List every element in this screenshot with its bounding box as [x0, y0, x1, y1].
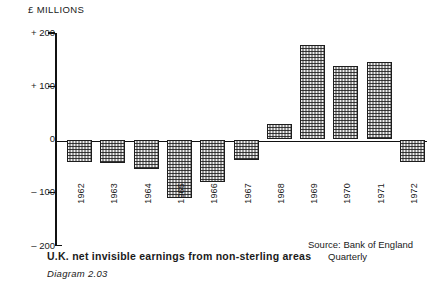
bar-1966 — [200, 140, 225, 183]
x-axis-label-1966: 1966 — [209, 183, 219, 204]
y-tick-label: – 100 — [9, 186, 55, 197]
x-axis-label-1969: 1969 — [309, 183, 319, 204]
chart-caption: U.K. net invisible earnings from non-ste… — [47, 250, 311, 262]
bar-1967 — [234, 140, 259, 160]
x-axis-label-1962: 1962 — [76, 183, 86, 204]
bar-1964 — [134, 140, 159, 170]
plot-area: 1962196319641965196619671968196919701971… — [55, 33, 427, 246]
diagram-number: Diagram 2.03 — [47, 268, 108, 279]
x-axis-label-1971: 1971 — [376, 183, 386, 204]
y-tick-label: + 100 — [9, 80, 55, 91]
x-axis-label-1963: 1963 — [109, 183, 119, 204]
bar-1971 — [367, 62, 392, 140]
y-tick-label: + 200 — [9, 27, 55, 38]
bar-1970 — [333, 66, 358, 139]
x-axis-label-1968: 1968 — [276, 183, 286, 204]
y-tick-label: 0 — [9, 133, 55, 144]
bar-chart: £ MILLIONS + 200+ 1000– 100– 200 1962196… — [0, 0, 442, 287]
x-axis-label-1972: 1972 — [409, 183, 419, 204]
bar-1969 — [300, 45, 325, 139]
bar-1963 — [100, 140, 125, 164]
y-axis-title: £ MILLIONS — [28, 4, 84, 15]
x-axis-label-1965: 1965 — [176, 183, 186, 204]
x-axis-label-1967: 1967 — [243, 183, 253, 204]
source-line-2: Quarterly — [308, 251, 413, 263]
y-tick-label: – 200 — [9, 240, 55, 251]
bar-1968 — [267, 124, 292, 140]
bar-1962 — [67, 140, 92, 162]
source-line-1: Source: Bank of England — [308, 239, 413, 251]
source-note: Source: Bank of England Quarterly — [308, 239, 413, 263]
x-axis-label-1970: 1970 — [342, 183, 352, 204]
x-axis-label-1964: 1964 — [143, 183, 153, 204]
bar-1972 — [400, 140, 425, 162]
